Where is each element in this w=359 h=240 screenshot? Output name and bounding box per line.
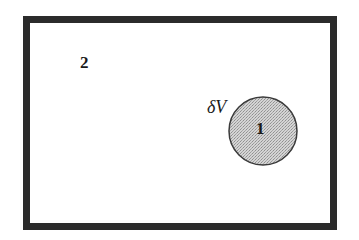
inner-region-circle <box>0 0 359 240</box>
delta-v-label: δV <box>207 98 226 116</box>
region-2-label: 2 <box>80 54 89 71</box>
diagram-canvas: 2 δV 1 <box>0 0 359 240</box>
region-1-label: 1 <box>256 120 265 137</box>
